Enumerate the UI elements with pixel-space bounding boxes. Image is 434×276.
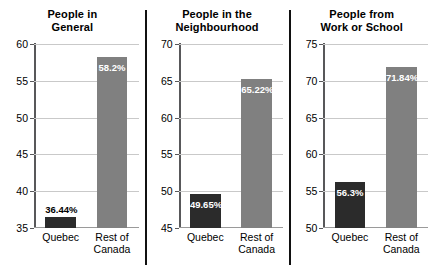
- y-tick-label: 50: [161, 185, 173, 197]
- bar-group-0: 36.44%Quebec58.2%Rest of Canada: [36, 44, 139, 228]
- y-tick-mark: [319, 118, 323, 119]
- panel-divider-left: [145, 10, 147, 265]
- y-tick-label: 45: [161, 222, 173, 234]
- panel-title: People in the Neighbourhood: [145, 8, 290, 33]
- y-tick-mark: [30, 44, 34, 45]
- plot-area-2: 505560657075 56.3%Quebec71.84%Rest of Ca…: [323, 44, 428, 228]
- chart-figure: People in General 354045505560 36.44%Que…: [0, 0, 434, 276]
- plot-area-1: 455055606570 49.65%Quebec65.22%Rest of C…: [179, 44, 284, 228]
- y-tick-label: 45: [16, 148, 28, 160]
- y-tick-mark: [175, 228, 179, 229]
- bar-slot: 58.2%Rest of Canada: [97, 44, 128, 228]
- bar-value-label: 71.84%: [386, 72, 417, 83]
- y-tick-mark: [30, 118, 34, 119]
- y-tick-mark: [175, 118, 179, 119]
- y-tick-label: 60: [161, 112, 173, 124]
- chart-panel-people-in-the-neighbourhood: People in the Neighbourhood 455055606570…: [145, 0, 290, 276]
- x-category-label: Rest of Canada: [88, 232, 137, 255]
- bar-value-label: 65.22%: [241, 84, 272, 95]
- bar-slot: 56.3%Quebec: [335, 44, 366, 228]
- y-tick-mark: [319, 228, 323, 229]
- y-tick-label: 55: [306, 185, 318, 197]
- y-tick-label: 70: [306, 75, 318, 87]
- y-tick-mark: [175, 191, 179, 192]
- y-tick-label: 65: [161, 75, 173, 87]
- x-category-label: Rest of Canada: [377, 232, 426, 255]
- bar-group-1: 49.65%Quebec65.22%Rest of Canada: [181, 44, 284, 228]
- y-tick-mark: [319, 44, 323, 45]
- plot-area-0: 354045505560 36.44%Quebec58.2%Rest of Ca…: [34, 44, 139, 228]
- y-tick-label: 60: [306, 148, 318, 160]
- y-tick-mark: [319, 81, 323, 82]
- y-tick-mark: [319, 191, 323, 192]
- y-tick-label: 50: [306, 222, 318, 234]
- y-tick-label: 70: [161, 38, 173, 50]
- chart-panel-people-in-general: People in General 354045505560 36.44%Que…: [0, 0, 145, 276]
- bar-group-2: 56.3%Quebec71.84%Rest of Canada: [325, 44, 428, 228]
- y-tick-label: 55: [16, 75, 28, 87]
- y-tick-label: 55: [161, 148, 173, 160]
- panel-title: People from Work or School: [289, 8, 434, 33]
- bar[interactable]: 65.22%: [241, 79, 272, 228]
- y-tick-mark: [175, 154, 179, 155]
- bar-slot: 36.44%Quebec: [45, 44, 76, 228]
- x-category-label: Quebec: [181, 232, 230, 244]
- panel-title: People in General: [0, 8, 145, 33]
- bar-slot: 71.84%Rest of Canada: [386, 44, 417, 228]
- bar-slot: 65.22%Rest of Canada: [241, 44, 272, 228]
- bar-value-label: 49.65%: [190, 199, 221, 210]
- y-tick-label: 65: [306, 112, 318, 124]
- chart-panel-people-from-work-or-school: People from Work or School 505560657075 …: [289, 0, 434, 276]
- y-tick-mark: [30, 81, 34, 82]
- y-tick-mark: [175, 44, 179, 45]
- x-category-label: Quebec: [326, 232, 375, 244]
- bar[interactable]: 58.2%: [97, 57, 128, 228]
- y-tick-label: 35: [16, 222, 28, 234]
- x-category-label: Rest of Canada: [232, 232, 281, 255]
- y-tick-mark: [175, 81, 179, 82]
- panel-divider-left: [289, 10, 291, 265]
- x-category-label: Quebec: [36, 232, 85, 244]
- bar-value-label: 56.3%: [335, 187, 366, 198]
- bar[interactable]: 71.84%: [386, 67, 417, 228]
- y-tick-mark: [30, 228, 34, 229]
- bar-value-label: 36.44%: [45, 204, 76, 215]
- bar[interactable]: 49.65%: [190, 194, 221, 228]
- bar[interactable]: 36.44%: [45, 217, 76, 228]
- y-tick-mark: [319, 154, 323, 155]
- y-tick-label: 60: [16, 38, 28, 50]
- y-tick-label: 50: [16, 112, 28, 124]
- bar-value-label: 58.2%: [97, 62, 128, 73]
- bar[interactable]: 56.3%: [335, 182, 366, 228]
- y-tick-label: 40: [16, 185, 28, 197]
- bar-slot: 49.65%Quebec: [190, 44, 221, 228]
- y-tick-mark: [30, 154, 34, 155]
- y-tick-mark: [30, 191, 34, 192]
- y-tick-label: 75: [306, 38, 318, 50]
